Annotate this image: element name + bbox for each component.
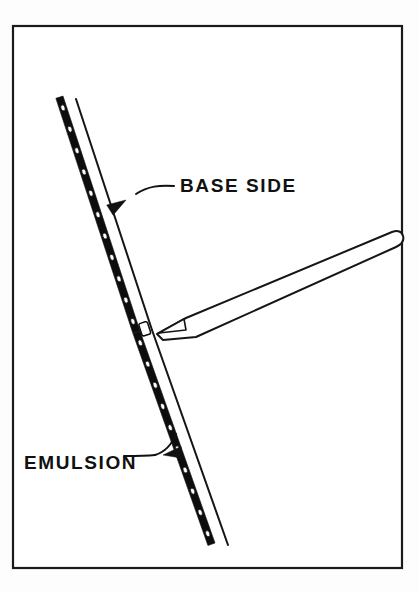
figure-root: BASE SIDE EMULSION <box>0 0 419 593</box>
label-emulsion: EMULSION <box>24 452 137 473</box>
label-base-side: BASE SIDE <box>180 175 297 196</box>
film-diagram-svg: BASE SIDE EMULSION <box>0 0 419 593</box>
